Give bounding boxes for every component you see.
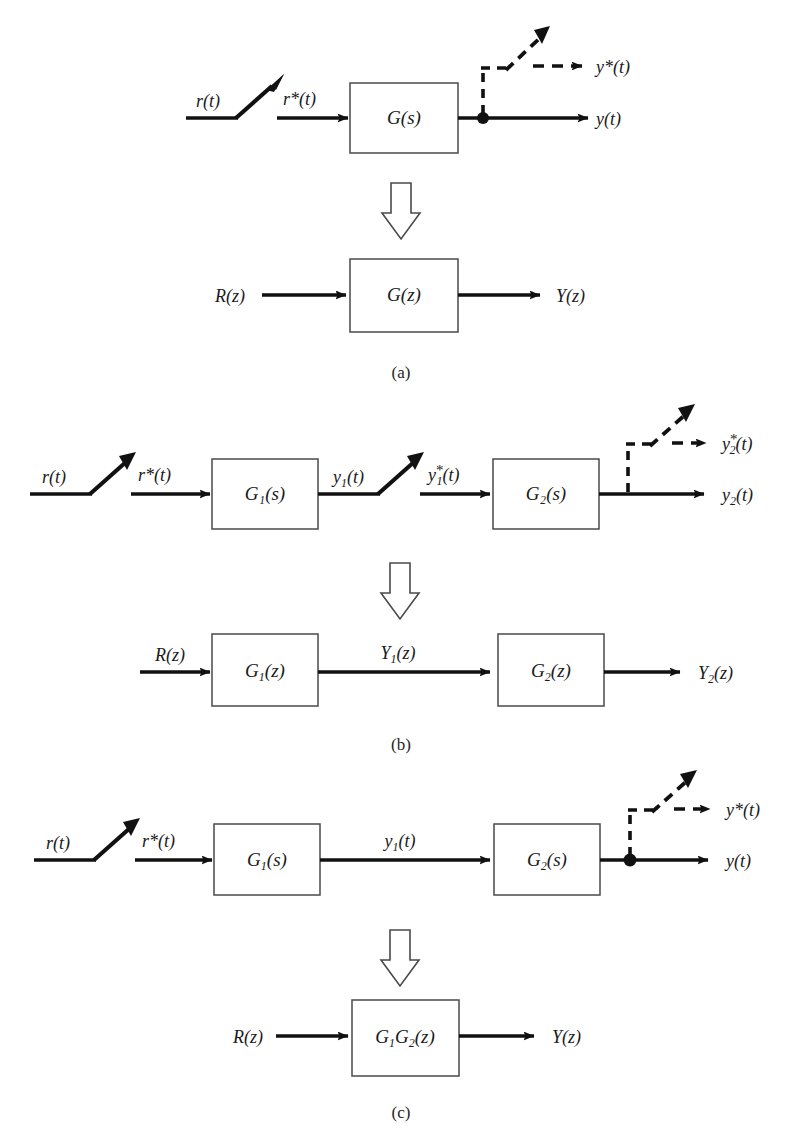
part-b-caption: (b): [391, 735, 411, 754]
part-b-sampled-input-label: r*(t): [138, 465, 171, 486]
part-c-sampled-input-label: r*(t): [142, 831, 175, 852]
part-b-block-g1s-label: G₁(s): [245, 483, 285, 505]
part-a-block-gz-label: G(z): [387, 284, 421, 306]
part-b-z-mid-label: Y1(z): [380, 643, 415, 666]
part-c-block-g1g2z-label: G1G2(z): [375, 1026, 435, 1050]
part-a-z-input-label: R(z): [214, 286, 245, 307]
part-b-sampled-mid-label: y*1(t): [426, 462, 460, 488]
part-c-block-g1s-label: G1(s): [247, 849, 287, 873]
part-b-z-input-label: R(z): [154, 645, 185, 666]
part-c-output-label: y(t): [724, 851, 751, 872]
part-a-output-label: y(t): [594, 109, 621, 130]
part-a-sampled-output-label: y*(t): [594, 57, 630, 78]
part-b-block-g2z-label: G2(z): [531, 660, 571, 684]
part-b-block-g2s-label: G₂(s): [526, 483, 566, 505]
part-c-caption: (c): [392, 1103, 411, 1122]
part-a-block-gs-label: G(s): [387, 107, 421, 129]
part-b-z-output-label: Y2(z): [698, 663, 733, 686]
part-b-sampled-output-label: y*2(t): [720, 431, 753, 457]
part-c-block-g2s-label: G2(s): [527, 849, 567, 873]
part-b-mid-label: y1(t): [331, 467, 364, 490]
part-a-input-label: r(t): [196, 91, 220, 112]
diagram-canvas: r(t) r*(t) G(s) y(t) y*(t): [0, 0, 796, 1145]
part-b-input-label: r(t): [42, 467, 66, 488]
part-c-z-input-label: R(z): [232, 1027, 263, 1048]
part-a-z-output-label: Y(z): [556, 286, 585, 307]
part-b-output-label: y2(t): [720, 485, 753, 508]
part-c-z-output-label: Y(z): [552, 1027, 581, 1048]
part-c-mid-label: y1(t): [383, 831, 416, 854]
part-b-block-g1z-label: G1(z): [245, 660, 285, 684]
part-c-input-label: r(t): [46, 833, 70, 854]
part-c-sampled-output-label: y*(t): [724, 800, 760, 821]
part-a-caption: (a): [392, 363, 411, 382]
block-diagram-figure: r(t) r*(t) G(s) y(t) y*(t): [0, 0, 796, 1145]
part-a-sampled-input-label: r*(t): [283, 89, 316, 110]
